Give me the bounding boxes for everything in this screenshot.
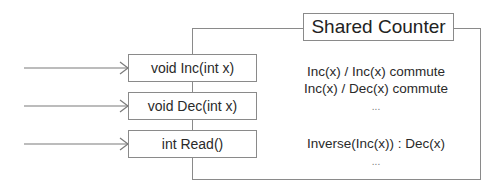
- commute-ellipsis: ...: [290, 99, 462, 115]
- commute-inc-dec: Inc(x) / Dec(x) commute: [290, 81, 462, 97]
- inverse-inc: Inverse(Inc(x)) : Dec(x): [290, 136, 462, 152]
- commute-inc-inc: Inc(x) / Inc(x) commute: [290, 64, 462, 80]
- method-dec-box: void Dec(int x): [128, 92, 257, 120]
- object-title: Shared Counter: [303, 13, 454, 41]
- inverse-ellipsis: ...: [290, 154, 462, 170]
- method-inc-box: void Inc(int x): [128, 54, 257, 82]
- method-read-box: int Read(): [128, 130, 257, 158]
